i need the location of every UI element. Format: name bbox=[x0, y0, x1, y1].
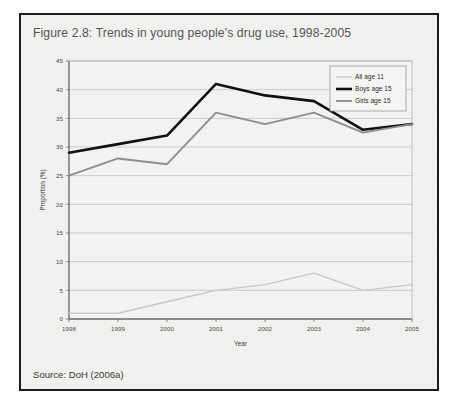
figure-container: Figure 2.8: Trends in young people's dru… bbox=[19, 13, 439, 391]
y-axis-title: Proportion (%) bbox=[39, 169, 47, 210]
x-axis-tick-label: 2002 bbox=[258, 325, 272, 332]
x-axis-tick-label: 1998 bbox=[62, 325, 76, 332]
y-axis-tick-label: 20 bbox=[56, 201, 63, 208]
y-axis-tick-label: 15 bbox=[56, 229, 63, 236]
y-axis-tick-label: 5 bbox=[60, 287, 64, 294]
x-axis-tick-label: 2001 bbox=[209, 325, 223, 332]
legend-label-all-age-11: All age 11 bbox=[355, 73, 384, 81]
source-note: Source: DoH (2006a) bbox=[33, 369, 124, 380]
x-axis-tick-label: 2005 bbox=[405, 325, 419, 332]
y-axis-tick-label: 10 bbox=[56, 258, 63, 265]
y-axis-tick-label: 35 bbox=[56, 115, 63, 122]
legend-label-boys-age-15: Boys age 15 bbox=[355, 85, 392, 93]
x-axis-tick-label: 1999 bbox=[111, 325, 125, 332]
x-axis-tick-label: 2003 bbox=[307, 325, 321, 332]
line-chart: 0510152025303540451998199920002001200220… bbox=[31, 51, 431, 363]
figure-caption: Figure 2.8: Trends in young people's dru… bbox=[33, 26, 351, 40]
y-axis-tick-label: 0 bbox=[60, 315, 64, 322]
chart-plot-region: 0510152025303540451998199920002001200220… bbox=[31, 51, 431, 363]
y-axis-tick-label: 40 bbox=[56, 86, 63, 93]
legend-label-girls-age-15: Girls age 15 bbox=[355, 97, 391, 105]
x-axis-tick-label: 2000 bbox=[160, 325, 174, 332]
x-axis-tick-label: 2004 bbox=[356, 325, 370, 332]
y-axis-tick-label: 45 bbox=[56, 57, 63, 64]
y-axis-tick-label: 30 bbox=[56, 143, 63, 150]
x-axis-title: Year bbox=[234, 340, 248, 347]
y-axis-tick-label: 25 bbox=[56, 172, 63, 179]
